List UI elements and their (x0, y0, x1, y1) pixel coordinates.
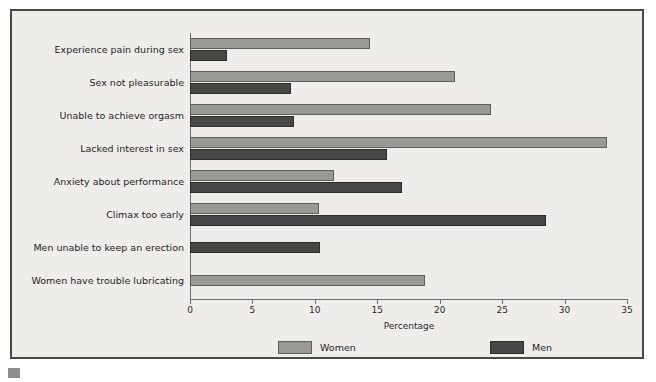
bar-men (190, 83, 291, 94)
category-label: Climax too early (30, 209, 184, 220)
category-label: Unable to achieve orgasm (30, 110, 184, 121)
axis-tick (377, 299, 378, 304)
axis-tick-label: 5 (250, 305, 256, 315)
bar-women (190, 38, 370, 49)
axis-tick-label: 10 (309, 305, 320, 315)
bar-women (190, 71, 455, 82)
bar-women (190, 275, 425, 286)
axis-tick-label: 15 (372, 305, 383, 315)
axis-tick-label: 25 (496, 305, 507, 315)
bar-men (190, 50, 227, 61)
category-label: Experience pain during sex (30, 44, 184, 55)
axis-tick (315, 299, 316, 304)
axis-tick-label: 35 (621, 305, 632, 315)
legend-item-men: Men (490, 341, 552, 354)
x-axis-title: Percentage (190, 321, 628, 331)
axis-tick-label: 30 (559, 305, 570, 315)
axis-tick (252, 299, 253, 304)
category-axis-labels: Experience pain during sexSex not pleasu… (30, 33, 184, 299)
page-corner-mark (8, 368, 20, 378)
axis-tick (190, 299, 191, 304)
bar-men (190, 116, 294, 127)
axis-tick-label: 0 (187, 305, 193, 315)
bar-women (190, 137, 607, 148)
legend-label: Women (320, 342, 356, 353)
legend-swatch-women (278, 341, 312, 354)
axis-tick (565, 299, 566, 304)
bar-men (190, 182, 402, 193)
axis-tick (627, 299, 628, 304)
chart-figure: Experience pain during sexSex not pleasu… (0, 0, 656, 382)
bars-area (190, 33, 627, 297)
category-label: Lacked interest in sex (30, 143, 184, 154)
axis-tick-label: 20 (434, 305, 445, 315)
value-axis-line (190, 299, 628, 300)
bar-women (190, 170, 334, 181)
bar-men (190, 242, 320, 253)
legend-item-women: Women (278, 341, 356, 354)
axis-tick (502, 299, 503, 304)
bar-women (190, 203, 319, 214)
category-label: Sex not pleasurable (30, 77, 184, 88)
category-label: Anxiety about performance (30, 176, 184, 187)
legend-swatch-men (490, 341, 524, 354)
legend-label: Men (532, 342, 552, 353)
chart-panel: Experience pain during sexSex not pleasu… (10, 9, 644, 359)
chart-legend: WomenMen (190, 341, 628, 359)
bar-men (190, 149, 387, 160)
category-label: Men unable to keep an erection (30, 242, 184, 253)
axis-tick (440, 299, 441, 304)
bar-women (190, 104, 491, 115)
bar-men (190, 215, 546, 226)
category-label: Women have trouble lubricating (30, 275, 184, 286)
